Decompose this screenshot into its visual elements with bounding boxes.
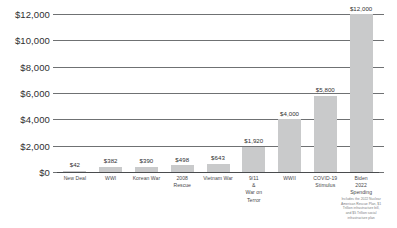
bar-group: $498 bbox=[171, 14, 194, 172]
y-axis-tick-mark bbox=[379, 119, 384, 120]
y-axis-tick-label: $10,000 bbox=[15, 35, 50, 46]
category-label: New Deal bbox=[57, 175, 93, 182]
category-label: WWII bbox=[272, 175, 308, 182]
bar bbox=[135, 167, 158, 172]
category-label: COVID-19 Stimulus bbox=[307, 175, 343, 189]
bar-value-label: $390 bbox=[140, 158, 154, 164]
footnote-annotation: Includes the 2022 Nuclear American Rescu… bbox=[333, 197, 389, 221]
bar-group: $1,920 bbox=[242, 14, 265, 172]
y-axis-tick-label: $2,000 bbox=[20, 140, 50, 151]
bar bbox=[99, 167, 122, 172]
bar-group: $390 bbox=[135, 14, 158, 172]
bar-group: $12,000 bbox=[350, 14, 373, 172]
y-axis-tick-label: $8,000 bbox=[20, 61, 50, 72]
y-axis-tick-mark bbox=[379, 172, 384, 173]
gridline-stub bbox=[53, 172, 57, 173]
bar-value-label: $382 bbox=[104, 158, 118, 164]
bar-value-label: $4,000 bbox=[280, 111, 299, 117]
y-axis-tick-mark bbox=[379, 14, 384, 15]
category-label: 2008 Rescue bbox=[164, 175, 200, 189]
bar-value-label: $12,000 bbox=[350, 6, 372, 12]
bar-group: $42 bbox=[63, 14, 86, 172]
bar bbox=[171, 165, 194, 172]
bar-value-label: $42 bbox=[70, 162, 80, 168]
category-label: WWI bbox=[93, 175, 129, 182]
y-axis: $0$2,000$4,000$6,000$8,000$10,000$12,000 bbox=[0, 0, 57, 186]
bar bbox=[278, 119, 301, 172]
category-label: 9/11 & War on Terror bbox=[236, 175, 272, 204]
category-label: Biden 2022 Spending bbox=[343, 175, 379, 197]
y-axis-tick-label: $4,000 bbox=[20, 114, 50, 125]
bar-value-label: $498 bbox=[175, 157, 189, 163]
category-axis-labels: New DealWWIKorean War2008 RescueVietnam … bbox=[57, 175, 379, 215]
y-axis-tick-mark bbox=[379, 93, 384, 94]
bar bbox=[207, 164, 230, 172]
bar-chart: $0$2,000$4,000$6,000$8,000$10,000$12,000… bbox=[0, 0, 397, 228]
category-label: Korean War bbox=[129, 175, 165, 182]
y-axis-tick-label: $0 bbox=[39, 167, 50, 178]
bar-group: $5,800 bbox=[314, 14, 337, 172]
bar-value-label: $5,800 bbox=[316, 87, 335, 93]
plot-area: $42$382$390$498$643$1,920$4,000$5,800$12… bbox=[57, 14, 379, 172]
y-axis-tick-mark bbox=[379, 40, 384, 41]
bar bbox=[314, 96, 337, 172]
y-axis-tick-label: $12,000 bbox=[15, 9, 50, 20]
bar-value-label: $643 bbox=[211, 155, 225, 161]
bars-layer: $42$382$390$498$643$1,920$4,000$5,800$12… bbox=[57, 14, 379, 172]
bar bbox=[242, 147, 265, 172]
y-axis-tick-label: $6,000 bbox=[20, 88, 50, 99]
bar-group: $382 bbox=[99, 14, 122, 172]
bar bbox=[350, 14, 373, 172]
bar-group: $643 bbox=[207, 14, 230, 172]
gridline bbox=[57, 172, 379, 173]
bar bbox=[63, 171, 86, 172]
bar-group: $4,000 bbox=[278, 14, 301, 172]
bar-value-label: $1,920 bbox=[244, 138, 263, 144]
category-label: Vietnam War bbox=[200, 175, 236, 182]
y-axis-tick-mark bbox=[379, 67, 384, 68]
y-axis-tick-mark bbox=[379, 146, 384, 147]
